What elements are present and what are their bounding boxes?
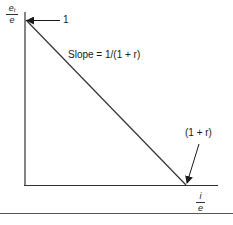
y-intercept-label: 1 [63, 15, 69, 25]
x-intercept-label: (1 + r) [185, 128, 212, 138]
budget-line [26, 20, 186, 185]
y-axis-label: et e [6, 4, 18, 25]
x-axis-label: i e [196, 192, 205, 213]
x-intercept-arrow [187, 144, 199, 183]
slope-label: Slope = 1/(1 + r) [68, 50, 140, 60]
